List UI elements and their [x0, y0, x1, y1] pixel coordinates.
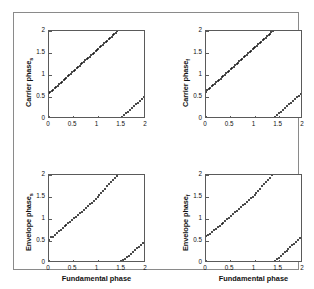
data-point [131, 107, 133, 109]
x-tickmark [255, 260, 256, 262]
data-point [278, 257, 280, 259]
data-point [145, 95, 146, 97]
y-tick-label: 2 [30, 26, 45, 33]
x-tickmark [230, 116, 231, 118]
data-point [75, 216, 77, 218]
y-tick-label: 1.5 [187, 48, 202, 55]
x-tick-label: 0.5 [63, 120, 81, 127]
data-point [288, 103, 290, 105]
y-tickmark [206, 175, 209, 176]
x-tick-label: 1 [245, 264, 263, 271]
y-axis-title-top-right: Carrier phasef [181, 59, 190, 107]
data-point [250, 197, 252, 199]
data-point [83, 61, 85, 63]
data-point [211, 231, 213, 233]
data-point [289, 246, 291, 248]
data-point [129, 109, 131, 111]
data-point [136, 247, 138, 249]
data-point [297, 239, 299, 241]
data-point [286, 250, 288, 252]
data-point [291, 244, 293, 246]
data-point [108, 183, 110, 185]
x-tick-label: 0.5 [220, 264, 238, 271]
data-point [254, 194, 256, 196]
y-tick-label: 2 [187, 26, 202, 33]
x-tick-label: 0 [39, 264, 57, 271]
y-axis-title-bottom-left: Envelope phases [24, 193, 33, 251]
data-point [248, 199, 250, 201]
data-point [282, 253, 284, 255]
data-point [91, 202, 93, 204]
data-point [110, 181, 112, 183]
x-tick-label: 1.5 [269, 120, 287, 127]
data-point [79, 65, 81, 67]
data-point [246, 201, 248, 203]
data-point [54, 234, 56, 236]
x-tickmark [122, 260, 123, 262]
data-point [265, 181, 267, 183]
data-point [295, 241, 297, 243]
y-tickmark [49, 75, 52, 76]
data-point [301, 236, 302, 238]
x-axis-title-bottom-left: Fundamental phase [48, 274, 145, 283]
data-point [87, 205, 89, 207]
data-point [230, 215, 232, 217]
x-tick-label: 1.5 [269, 264, 287, 271]
x-tickmark [98, 260, 99, 262]
data-point [267, 179, 269, 181]
x-tick-label: 2 [293, 264, 311, 271]
data-point [124, 258, 126, 260]
data-point [144, 240, 145, 242]
x-tick-label: 1.5 [112, 264, 130, 271]
data-point [292, 100, 294, 102]
data-point [261, 185, 263, 187]
data-point [293, 243, 295, 245]
x-tick-label: 1.5 [112, 120, 130, 127]
data-point [294, 98, 296, 100]
data-point [296, 96, 298, 98]
data-point [118, 261, 120, 262]
data-point [221, 223, 223, 225]
x-tickmark [255, 116, 256, 118]
data-point [143, 96, 145, 98]
y-axis-title-text: Carrier phase [24, 61, 33, 107]
x-tickmark [73, 116, 74, 118]
data-point [93, 200, 95, 202]
data-point [132, 251, 134, 253]
y-tick-label: 2 [187, 170, 202, 177]
data-point [241, 58, 243, 60]
data-point [106, 185, 108, 187]
x-tickmark [279, 116, 280, 118]
data-point [89, 203, 91, 205]
data-point [263, 183, 265, 185]
data-point [62, 227, 64, 229]
x-tick-label: 0 [196, 120, 214, 127]
x-tickmark [206, 260, 207, 262]
data-point [282, 109, 284, 111]
data-point [276, 258, 278, 260]
data-point [205, 91, 207, 93]
y-axis-title-subscript: s [28, 58, 34, 61]
y-tickmark [206, 31, 209, 32]
data-point [250, 50, 252, 52]
plot-area-top-right [205, 30, 302, 118]
x-tickmark [73, 260, 74, 262]
data-point [298, 95, 300, 97]
data-point [274, 260, 276, 262]
data-point [217, 226, 219, 228]
x-tick-label: 1 [88, 264, 106, 271]
data-point [71, 219, 73, 221]
data-point [138, 246, 140, 248]
data-point [219, 225, 221, 227]
data-point [234, 211, 236, 213]
x-tickmark [206, 116, 207, 118]
y-tickmark [49, 197, 52, 198]
data-point [274, 116, 276, 118]
data-point [238, 208, 240, 210]
data-point [142, 242, 144, 244]
y-axis-title-subscript: f [185, 194, 191, 196]
data-point [135, 103, 137, 105]
y-tickmark [206, 219, 209, 220]
data-point [209, 87, 211, 89]
data-point [280, 255, 282, 257]
